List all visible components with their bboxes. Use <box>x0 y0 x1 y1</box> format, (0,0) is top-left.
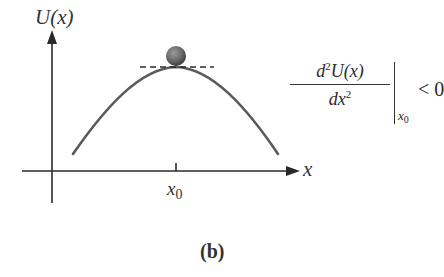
evaluation-point: x0 <box>398 108 409 125</box>
x-axis-arrow-icon <box>286 166 300 176</box>
x0-tick-label: x0 <box>167 178 182 203</box>
ball-icon <box>166 46 186 66</box>
denominator-power: 2 <box>346 88 352 100</box>
y-axis-label: U(x) <box>35 5 73 30</box>
denominator: dx2 <box>290 85 390 110</box>
figure-caption: (b) <box>200 240 224 263</box>
evaluation-bar <box>394 62 395 124</box>
eval-subscript: 0 <box>404 114 409 125</box>
potential-curve <box>73 67 278 154</box>
fraction: d2U(x) dx2 <box>290 60 390 110</box>
numerator-rest: U(x) <box>331 61 364 81</box>
inequality: < 0 <box>418 78 444 101</box>
y-axis-arrow-icon <box>47 30 57 44</box>
second-derivative-formula: d2U(x) dx2 x0 < 0 <box>290 60 430 130</box>
numerator-d: d <box>316 61 325 81</box>
y-axis <box>47 30 57 203</box>
denominator-dx: dx <box>329 89 346 109</box>
numerator: d2U(x) <box>290 60 390 85</box>
x0-subscript: 0 <box>175 187 182 202</box>
x-axis-label: x <box>303 157 312 182</box>
x-axis <box>22 166 300 176</box>
